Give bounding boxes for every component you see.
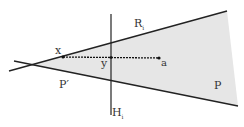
point-y bbox=[110, 56, 113, 59]
label-a: a bbox=[161, 57, 167, 68]
diagram-canvas: x y a Ri Hi P′ P bbox=[0, 0, 244, 127]
cone-diagram: x y a Ri Hi P′ P bbox=[0, 0, 244, 127]
point-x bbox=[62, 56, 65, 59]
label-H: Hi bbox=[112, 106, 124, 120]
label-x: x bbox=[55, 44, 62, 57]
label-P: P bbox=[214, 79, 222, 92]
label-y: y bbox=[100, 57, 108, 70]
label-R: Ri bbox=[134, 17, 144, 31]
label-P-prime: P′ bbox=[59, 78, 69, 91]
